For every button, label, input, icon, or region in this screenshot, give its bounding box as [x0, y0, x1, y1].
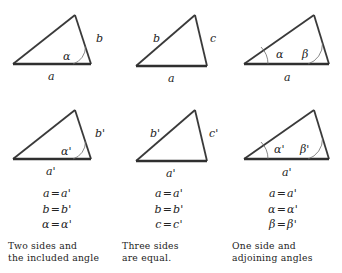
equation-operator: = [50, 218, 61, 231]
equation-operator: = [50, 203, 61, 216]
triangle-bottom-sss: b' c' a' [112, 97, 226, 189]
caption-line: Three sides [122, 240, 226, 252]
triangle-bottom-asa: α' β' a' [226, 97, 340, 189]
triangle-right-side-c [195, 15, 207, 66]
label-side-a: a [168, 72, 175, 85]
equation-row: a=a' [112, 186, 226, 202]
panel-two-sides-included-angle: b a α b' a' α' a=a' b=b' [0, 0, 114, 273]
caption-line: are equal. [122, 252, 226, 264]
triangle-right-side [314, 110, 329, 159]
equation-right: c' [173, 218, 183, 231]
triangle-top-sas: b a α [0, 2, 114, 94]
equation-left: α [42, 218, 50, 231]
triangle-left-side-b-prime [136, 110, 195, 161]
label-angle-alpha: α [276, 48, 284, 61]
label-side-a: a [284, 71, 291, 84]
label-angle-alpha-prime: α' [61, 145, 71, 158]
triangle-bottom-sas-svg: b' a' α' [0, 97, 114, 189]
equation-left: b [42, 203, 49, 216]
triangle-bottom-sss-svg: b' c' a' [112, 97, 226, 189]
angle-arc-alpha [73, 47, 86, 65]
equation-operator: = [276, 218, 287, 231]
equation-right: a' [287, 187, 297, 200]
equation-right: a' [61, 187, 71, 200]
equation-left: a [269, 187, 276, 200]
equation-left: β [269, 218, 276, 231]
triangle-bottom-asa-svg: α' β' a' [226, 97, 340, 189]
equations-sas: a=a' b=b' α=α' [0, 186, 114, 233]
equation-operator: = [276, 203, 287, 216]
triangle-top-sss-svg: b c a [112, 2, 226, 94]
label-side-c-prime: c' [209, 127, 218, 140]
equation-row: b=b' [0, 202, 114, 218]
equation-right: b' [173, 203, 183, 216]
angle-arc-beta-prime [308, 139, 323, 160]
equations-asa: a=a' α=α' β=β' [226, 186, 340, 233]
label-side-b: b [153, 32, 160, 45]
equations-sss: a=a' b=b' c=c' [112, 186, 226, 233]
equation-left: a [43, 187, 50, 200]
equation-operator: = [162, 203, 173, 216]
label-side-a-prime: a' [46, 165, 56, 178]
caption-line: Two sides and [8, 240, 114, 252]
equation-left: b [154, 203, 161, 216]
triangle-left-side-b [136, 15, 195, 66]
equation-row: a=a' [0, 186, 114, 202]
label-side-a-prime: a' [166, 167, 176, 180]
angle-arc-beta [308, 44, 323, 65]
angle-arc-alpha-prime [73, 142, 86, 160]
triangle-congruence-figure: b a α b' a' α' a=a' b=b' [0, 0, 342, 273]
equation-left: a [155, 187, 162, 200]
triangle-right-side-c-prime [195, 110, 207, 161]
label-side-a: a [48, 70, 55, 83]
equation-right: b' [61, 203, 71, 216]
caption-line: adjoining angles [232, 252, 340, 264]
equation-right: α' [287, 203, 298, 216]
triangle-top-sas-svg: b a α [0, 2, 114, 94]
equation-left: c [155, 218, 161, 231]
equation-left: α [268, 203, 276, 216]
label-angle-alpha: α [63, 50, 71, 63]
equation-row: c=c' [112, 217, 226, 233]
equation-operator: = [162, 187, 173, 200]
equation-row: α=α' [226, 202, 340, 218]
label-angle-beta: β [301, 48, 308, 61]
equation-right: β' [287, 218, 297, 231]
equation-operator: = [276, 187, 287, 200]
equation-row: β=β' [226, 217, 340, 233]
label-side-c: c [210, 32, 216, 45]
label-side-a-prime: a' [282, 166, 292, 179]
triangle-top-sss: b c a [112, 2, 226, 94]
label-side-b: b [96, 32, 103, 45]
equation-row: b=b' [112, 202, 226, 218]
triangle-top-asa: α β a [226, 2, 340, 94]
caption-sas: Two sides and the included angle [0, 240, 114, 265]
caption-sss: Three sides are equal. [112, 240, 226, 265]
equation-operator: = [50, 187, 61, 200]
triangle-bottom-sas: b' a' α' [0, 97, 114, 189]
caption-line: the included angle [8, 252, 114, 264]
equation-row: a=a' [226, 186, 340, 202]
equation-operator: = [162, 218, 173, 231]
caption-asa: One side and adjoining angles [226, 240, 340, 265]
equation-right: α' [61, 218, 72, 231]
label-side-b-prime: b' [95, 127, 105, 140]
equation-row: α=α' [0, 217, 114, 233]
triangle-right-side [314, 15, 329, 64]
label-angle-alpha-prime: α' [274, 143, 284, 156]
caption-line: One side and [232, 240, 340, 252]
equation-right: a' [173, 187, 183, 200]
label-side-b-prime: b' [150, 127, 160, 140]
triangle-top-asa-svg: α β a [226, 2, 340, 94]
label-angle-beta-prime: β' [299, 143, 309, 156]
panel-three-sides: b c a b' c' a' a=a' b=b' c=c' [112, 0, 226, 273]
panel-one-side-adjoining-angles: α β a α' β' a' a=a' α=α' [226, 0, 340, 273]
